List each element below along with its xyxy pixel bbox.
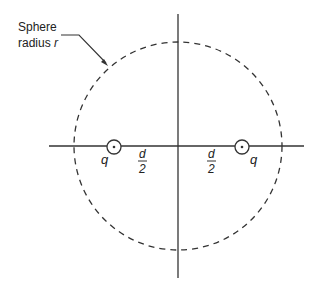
- charge-left: [107, 140, 121, 154]
- distance-label-right: d 2: [207, 147, 216, 176]
- sphere-label-line1: Sphere: [18, 20, 57, 34]
- distance-label-left: d 2: [138, 147, 147, 176]
- sphere-charges-diagram: q q d 2 d 2 Sphere radius r: [0, 0, 321, 293]
- sphere-label-line2: radius r: [18, 36, 59, 50]
- charge-right: [235, 140, 249, 154]
- charge-label-left: q: [101, 152, 109, 167]
- leader-line: [61, 35, 106, 63]
- sphere-label-variable: r: [54, 36, 59, 50]
- distance-denominator: 2: [207, 162, 215, 176]
- sphere-label-radius: radius: [18, 36, 54, 50]
- arrowhead-icon: [101, 59, 108, 66]
- charge-label-right: q: [250, 152, 258, 167]
- distance-numerator: d: [139, 147, 146, 161]
- distance-denominator: 2: [138, 162, 146, 176]
- distance-numerator: d: [208, 147, 215, 161]
